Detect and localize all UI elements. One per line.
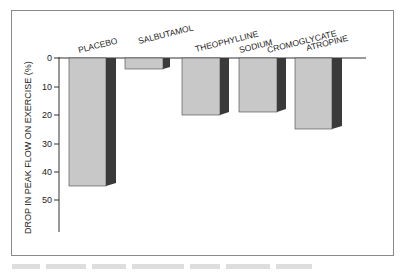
tick-label-0: 0 (47, 53, 52, 63)
tick-label-30: 30 (42, 139, 52, 149)
tick-label-10: 10 (42, 82, 52, 92)
bar-theophylline (182, 58, 229, 115)
y-axis-label: DROP IN PEAK FLOW ON EXERCISE (%) (23, 61, 33, 234)
y-ticks: 0 10 20 30 40 50 (42, 53, 59, 205)
tick-label-20: 20 (42, 110, 52, 120)
tick-label-50: 50 (42, 195, 52, 205)
tick-label-40: 40 (42, 167, 52, 177)
bar-chart: 0 10 20 30 40 50 DROP IN PEAK FLOW ON EX… (0, 0, 405, 278)
bar-salbutamol (125, 58, 170, 69)
bar-placebo (69, 58, 116, 186)
bar-atropine (295, 58, 342, 129)
category-label-placebo: PLACEBO (77, 35, 119, 55)
bar-sodium-cromoglycate (239, 58, 286, 112)
category-label-salbutamol: SALBUTAMOL (137, 22, 195, 45)
figure-caption-cropped (12, 264, 392, 278)
